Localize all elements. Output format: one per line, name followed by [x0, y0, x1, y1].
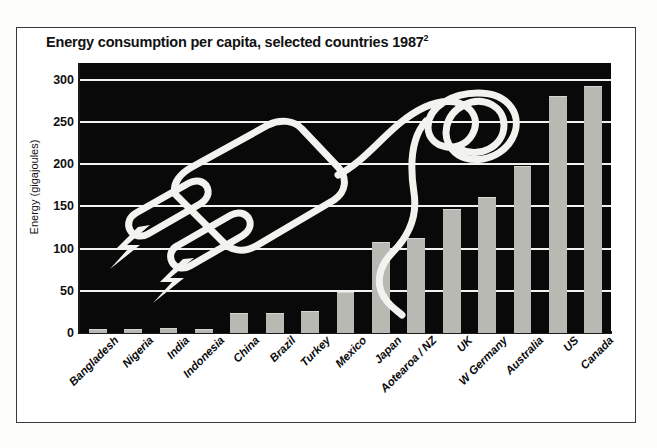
bar-uk	[443, 209, 461, 333]
x-axis-labels-group: BangladeshNigeriaIndiaIndonesiaChinaBraz…	[80, 334, 611, 434]
x-tick-label-us: US	[561, 334, 581, 354]
y-tick-label-100: 100	[30, 242, 74, 256]
bar-brazil	[266, 313, 284, 333]
bar-japan	[372, 242, 390, 333]
y-tick-label-0: 0	[30, 326, 74, 340]
x-tick-label-nigeria: Nigeria	[120, 334, 156, 370]
chart-title-footnote-marker: 2	[424, 33, 429, 43]
bar-turkey	[301, 311, 319, 333]
bar-nigeria	[124, 329, 142, 333]
bar-aotearoa-nz	[407, 238, 425, 334]
gridline-200	[80, 163, 611, 165]
x-tick-label-uk: UK	[454, 334, 474, 354]
plot-area	[80, 63, 611, 333]
gridline-250	[80, 121, 611, 123]
x-tick-label-china: China	[231, 334, 262, 365]
chart-title: Energy consumption per capita, selected …	[46, 33, 606, 50]
bar-bangladesh	[89, 329, 107, 333]
y-tick-label-150: 150	[30, 199, 74, 213]
bar-indonesia	[195, 329, 213, 333]
y-tick-label-50: 50	[30, 284, 74, 298]
screenshot-page: Energy consumption per capita, selected …	[0, 0, 657, 448]
gridline-100	[80, 248, 611, 250]
bar-mexico	[337, 292, 355, 334]
y-tick-label-250: 250	[30, 115, 74, 129]
gridline-300	[80, 79, 611, 81]
x-tick-label-india: India	[164, 334, 191, 361]
gridline-150	[80, 205, 611, 207]
chart-title-text: Energy consumption per capita, selected …	[46, 34, 424, 50]
bar-canada	[584, 86, 602, 333]
bar-us	[549, 96, 567, 333]
x-tick-label-australia: Australia	[502, 334, 545, 377]
bar-china	[230, 313, 248, 333]
y-axis-ticks-group: 050100150200250300	[22, 63, 74, 333]
x-tick-label-mexico: Mexico	[332, 334, 368, 370]
y-tick-label-200: 200	[30, 157, 74, 171]
bar-australia	[514, 166, 532, 333]
x-tick-label-japan: Japan	[372, 334, 404, 366]
y-tick-label-300: 300	[30, 73, 74, 87]
bar-india	[160, 328, 178, 333]
x-tick-label-canada: Canada	[578, 334, 615, 371]
x-tick-label-brazil: Brazil	[267, 334, 297, 364]
bar-w-germany	[478, 197, 496, 333]
x-tick-label-turkey: Turkey	[298, 334, 333, 369]
